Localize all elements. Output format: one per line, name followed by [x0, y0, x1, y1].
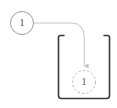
- diagram-svg: 1 1: [0, 0, 117, 108]
- target-slot-label: 1: [82, 76, 87, 87]
- source-node-label: 1: [20, 17, 25, 28]
- drag-connector-arrow: [35, 23, 85, 66]
- diagram-canvas: 1 1: [0, 0, 117, 108]
